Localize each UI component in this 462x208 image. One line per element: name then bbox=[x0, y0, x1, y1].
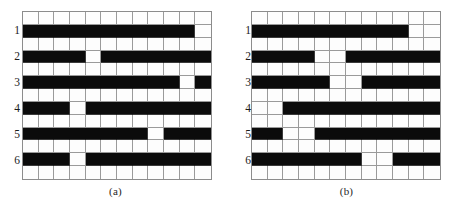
cell-b-r4-c6[interactable] bbox=[330, 51, 346, 64]
cell-a-r2-c6[interactable] bbox=[101, 25, 117, 38]
cell-a-r3-c7[interactable] bbox=[117, 38, 133, 51]
cell-a-r11-c12[interactable] bbox=[195, 140, 211, 153]
cell-b-r3-c12[interactable] bbox=[424, 38, 440, 51]
cell-a-r8-c10[interactable] bbox=[164, 102, 180, 115]
cell-a-r9-c7[interactable] bbox=[117, 115, 133, 128]
cell-a-r2-c4[interactable] bbox=[70, 25, 86, 38]
cell-b-r5-c4[interactable] bbox=[299, 63, 315, 76]
cell-b-r12-c6[interactable] bbox=[330, 153, 346, 166]
cell-b-r11-c6[interactable] bbox=[330, 140, 346, 153]
cell-b-r3-c7[interactable] bbox=[346, 38, 362, 51]
cell-b-r12-c8[interactable] bbox=[362, 153, 378, 166]
cell-b-r8-c5[interactable] bbox=[315, 102, 331, 115]
cell-b-r12-c5[interactable] bbox=[315, 153, 331, 166]
cell-b-r13-c12[interactable] bbox=[424, 166, 440, 179]
cell-b-r7-c11[interactable] bbox=[409, 89, 425, 102]
cell-b-r1-c2[interactable] bbox=[268, 12, 284, 25]
cell-a-r11-c6[interactable] bbox=[101, 140, 117, 153]
cell-b-r7-c6[interactable] bbox=[330, 89, 346, 102]
cell-b-r6-c12[interactable] bbox=[424, 76, 440, 89]
cell-b-r10-c6[interactable] bbox=[330, 128, 346, 141]
cell-b-r8-c9[interactable] bbox=[377, 102, 393, 115]
cell-a-r6-c7[interactable] bbox=[117, 76, 133, 89]
cell-a-r5-c9[interactable] bbox=[148, 63, 164, 76]
cell-b-r12-c2[interactable] bbox=[268, 153, 284, 166]
cell-b-r4-c8[interactable] bbox=[362, 51, 378, 64]
cell-b-r6-c10[interactable] bbox=[393, 76, 409, 89]
cell-b-r9-c10[interactable] bbox=[393, 115, 409, 128]
cell-a-r7-c1[interactable] bbox=[23, 89, 39, 102]
cell-b-r2-c10[interactable] bbox=[393, 25, 409, 38]
cell-a-r9-c9[interactable] bbox=[148, 115, 164, 128]
cell-a-r3-c8[interactable] bbox=[133, 38, 149, 51]
cell-a-r1-c7[interactable] bbox=[117, 12, 133, 25]
cell-b-r13-c9[interactable] bbox=[377, 166, 393, 179]
cell-a-r10-c2[interactable] bbox=[39, 128, 55, 141]
cell-a-r6-c1[interactable] bbox=[23, 76, 39, 89]
cell-a-r4-c2[interactable] bbox=[39, 51, 55, 64]
cell-a-r1-c2[interactable] bbox=[39, 12, 55, 25]
cell-b-r6-c8[interactable] bbox=[362, 76, 378, 89]
cell-b-r13-c8[interactable] bbox=[362, 166, 378, 179]
cell-b-r4-c7[interactable] bbox=[346, 51, 362, 64]
cell-b-r12-c4[interactable] bbox=[299, 153, 315, 166]
cell-a-r9-c5[interactable] bbox=[86, 115, 102, 128]
cell-a-r8-c6[interactable] bbox=[101, 102, 117, 115]
cell-a-r1-c11[interactable] bbox=[180, 12, 196, 25]
cell-b-r1-c7[interactable] bbox=[346, 12, 362, 25]
cell-a-r8-c12[interactable] bbox=[195, 102, 211, 115]
cell-a-r9-c1[interactable] bbox=[23, 115, 39, 128]
panel-b-grid[interactable] bbox=[251, 11, 441, 180]
cell-b-r4-c3[interactable] bbox=[283, 51, 299, 64]
cell-b-r8-c7[interactable] bbox=[346, 102, 362, 115]
cell-a-r3-c10[interactable] bbox=[164, 38, 180, 51]
cell-b-r8-c12[interactable] bbox=[424, 102, 440, 115]
cell-b-r2-c8[interactable] bbox=[362, 25, 378, 38]
cell-a-r13-c12[interactable] bbox=[195, 166, 211, 179]
cell-b-r12-c11[interactable] bbox=[409, 153, 425, 166]
cell-b-r8-c6[interactable] bbox=[330, 102, 346, 115]
cell-a-r7-c5[interactable] bbox=[86, 89, 102, 102]
cell-a-r13-c7[interactable] bbox=[117, 166, 133, 179]
cell-b-r1-c3[interactable] bbox=[283, 12, 299, 25]
cell-b-r3-c6[interactable] bbox=[330, 38, 346, 51]
cell-b-r1-c5[interactable] bbox=[315, 12, 331, 25]
cell-b-r10-c11[interactable] bbox=[409, 128, 425, 141]
cell-b-r9-c1[interactable] bbox=[252, 115, 268, 128]
cell-a-r9-c4[interactable] bbox=[70, 115, 86, 128]
cell-a-r8-c8[interactable] bbox=[133, 102, 149, 115]
cell-b-r7-c7[interactable] bbox=[346, 89, 362, 102]
cell-b-r10-c2[interactable] bbox=[268, 128, 284, 141]
cell-b-r4-c12[interactable] bbox=[424, 51, 440, 64]
cell-a-r12-c12[interactable] bbox=[195, 153, 211, 166]
cell-b-r10-c8[interactable] bbox=[362, 128, 378, 141]
panel-a-grid[interactable] bbox=[22, 11, 212, 180]
cell-a-r1-c12[interactable] bbox=[195, 12, 211, 25]
cell-a-r1-c9[interactable] bbox=[148, 12, 164, 25]
cell-a-r6-c6[interactable] bbox=[101, 76, 117, 89]
cell-b-r7-c5[interactable] bbox=[315, 89, 331, 102]
cell-a-r11-c5[interactable] bbox=[86, 140, 102, 153]
cell-a-r6-c5[interactable] bbox=[86, 76, 102, 89]
cell-a-r5-c1[interactable] bbox=[23, 63, 39, 76]
cell-a-r12-c11[interactable] bbox=[180, 153, 196, 166]
cell-b-r3-c9[interactable] bbox=[377, 38, 393, 51]
cell-b-r1-c10[interactable] bbox=[393, 12, 409, 25]
cell-a-r3-c2[interactable] bbox=[39, 38, 55, 51]
cell-a-r10-c3[interactable] bbox=[54, 128, 70, 141]
cell-a-r11-c4[interactable] bbox=[70, 140, 86, 153]
cell-a-r11-c10[interactable] bbox=[164, 140, 180, 153]
cell-b-r1-c4[interactable] bbox=[299, 12, 315, 25]
cell-b-r6-c1[interactable] bbox=[252, 76, 268, 89]
cell-b-r7-c9[interactable] bbox=[377, 89, 393, 102]
cell-a-r8-c1[interactable] bbox=[23, 102, 39, 115]
cell-a-r13-c1[interactable] bbox=[23, 166, 39, 179]
cell-a-r7-c12[interactable] bbox=[195, 89, 211, 102]
cell-a-r4-c3[interactable] bbox=[54, 51, 70, 64]
cell-b-r4-c2[interactable] bbox=[268, 51, 284, 64]
cell-b-r8-c4[interactable] bbox=[299, 102, 315, 115]
cell-b-r5-c1[interactable] bbox=[252, 63, 268, 76]
cell-b-r9-c9[interactable] bbox=[377, 115, 393, 128]
cell-b-r10-c3[interactable] bbox=[283, 128, 299, 141]
cell-b-r3-c2[interactable] bbox=[268, 38, 284, 51]
